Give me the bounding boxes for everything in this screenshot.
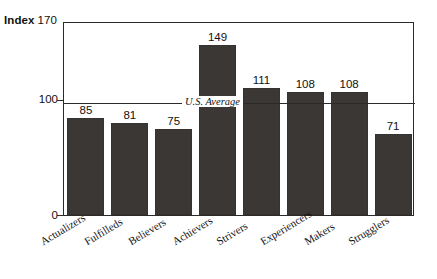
bar-value-label: 75 [155, 115, 192, 127]
x-axis-label: Strugglers [346, 214, 391, 248]
y-axis-title-label: Index [4, 14, 35, 26]
bar [243, 88, 280, 215]
bar-value-label: 111 [243, 74, 280, 86]
x-axis-label: Achievers [170, 214, 214, 247]
bar [155, 129, 192, 215]
bar [287, 92, 324, 215]
bar [331, 92, 368, 215]
bar-value-label: 108 [331, 78, 368, 90]
bar [67, 118, 104, 215]
bar-value-label: 71 [375, 120, 412, 132]
x-axis-label: Makers [302, 220, 336, 247]
x-axis-label: Believers [126, 216, 168, 248]
bar-value-label: 81 [111, 109, 148, 121]
x-axis-label: Fulfilleds [82, 215, 124, 247]
bar [111, 123, 148, 215]
bar [375, 134, 412, 215]
plot-area: 85817514911110810871 U.S. Average [63, 22, 414, 216]
bar-value-label: 149 [199, 31, 236, 43]
bar-value-label: 85 [67, 104, 104, 116]
bar-value-label: 108 [287, 78, 324, 90]
x-axis-label: Strivers [214, 219, 250, 247]
reference-line-label: U.S. Average [182, 96, 243, 107]
y-tick-label-0: 0 [26, 209, 58, 221]
bar-chart: Index170 100 0 85817514911110810871 U.S.… [0, 0, 437, 279]
bar [199, 45, 236, 215]
y-axis-title: Index170 [4, 14, 57, 26]
y-axis-max-tick-label: 170 [38, 14, 58, 26]
y-tick-label-100: 100 [26, 93, 58, 105]
bars-layer: 85817514911110810871 [64, 23, 413, 215]
